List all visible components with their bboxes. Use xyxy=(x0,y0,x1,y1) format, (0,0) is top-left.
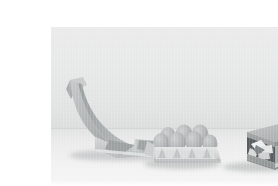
closed-paper-box xyxy=(51,27,278,186)
photograph: Three moulded paper packaging forms arra… xyxy=(51,27,278,186)
page-root: Three moulded paper packaging forms arra… xyxy=(0,0,278,186)
